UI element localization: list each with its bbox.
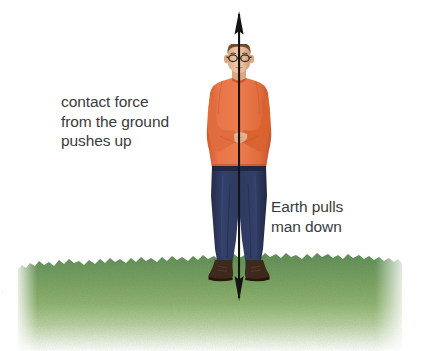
standing-man-figure — [196, 44, 282, 288]
physics-force-diagram: contact force from the ground pushes up … — [0, 0, 422, 351]
earth-pull-label: Earth pulls man down — [271, 197, 391, 236]
page-edge-artifact: · — [1, 288, 5, 301]
contact-force-label: contact force from the ground pushes up — [61, 92, 211, 151]
